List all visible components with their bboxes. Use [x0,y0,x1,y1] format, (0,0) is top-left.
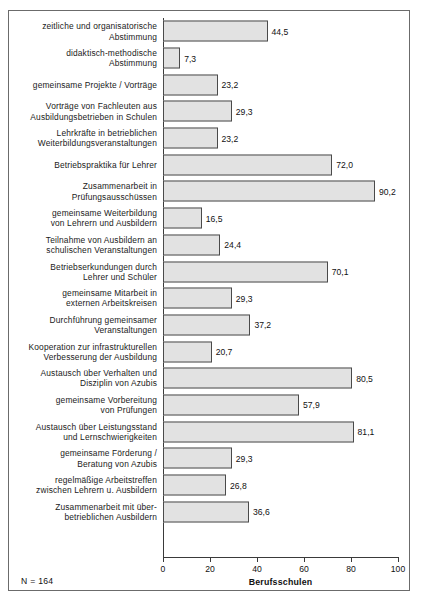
bar-container: 36,6 [163,501,270,522]
bar-row: Betriebspraktika für Lehrer72,0 [9,151,409,178]
bar-container: 29,3 [163,101,253,122]
bar-container: 57,9 [163,394,320,415]
bar [163,74,218,95]
bar-value-label: 23,2 [222,133,239,143]
bar-container: 72,0 [163,154,353,175]
bar-value-label: 81,1 [358,427,375,437]
bar-value-label: 72,0 [336,160,353,170]
bar [163,128,218,149]
bar-value-label: 44,5 [272,26,289,36]
bar-row: Kooperation zur infrastrukturellen Verbe… [9,338,409,365]
bar-row: Betriebserkundungen durch Lehrer und Sch… [9,258,409,285]
category-label: Durchführung gemeinsamer Veranstaltungen [11,315,157,335]
category-label: Austausch über Leistungsstand und Lernsc… [11,421,157,441]
bar-container: 20,7 [163,341,232,362]
x-tick-label: 100 [391,564,405,574]
x-tick-label: 20 [205,564,215,574]
x-axis-title: Berufsschulen [163,577,398,587]
bar [163,261,328,282]
category-label: Vorträge von Fachleuten aus Ausbildungsb… [11,101,157,121]
bar [163,501,249,522]
bar-row: gemeinsame Vorbereitung von Prüfungen57,… [9,392,409,419]
category-label: Teilnahme von Ausbildern an schulischen … [11,235,157,255]
x-tick-label: 60 [299,564,309,574]
bar-container: 80,5 [163,368,373,389]
bar [163,394,299,415]
bar-container: 44,5 [163,21,288,42]
x-tick-mark [163,557,164,562]
bar-container: 7,3 [163,48,196,69]
category-label: Austausch über Verhalten und Disziplin v… [11,368,157,388]
bar-row: gemeinsame Projekte / Vorträge23,2 [9,71,409,98]
category-label: Betriebspraktika für Lehrer [11,160,157,170]
x-tick-mark [210,557,211,562]
bar [163,21,268,42]
category-label: gemeinsame Vorbereitung von Prüfungen [11,395,157,415]
bar-container: 24,4 [163,234,241,255]
bar-value-label: 70,1 [332,267,349,277]
bar [163,181,375,202]
category-label: Lehrkräfte in betrieblichen Weiterbildun… [11,128,157,148]
bar-row: Zusammenarbeit mit über- betrieblichen A… [9,498,409,525]
category-label: Betriebserkundungen durch Lehrer und Sch… [11,261,157,281]
x-tick-mark [351,557,352,562]
bar-row: zeitliche und organisatorische Abstimmun… [9,18,409,45]
bar-value-label: 23,2 [222,80,239,90]
bar-row: gemeinsame Weiterbildung von Lehrern und… [9,205,409,232]
category-label: gemeinsame Weiterbildung von Lehrern und… [11,208,157,228]
category-label: gemeinsame Mitarbeit in externen Arbeits… [11,288,157,308]
category-label: didaktisch-methodische Abstimmung [11,48,157,68]
bar-value-label: 26,8 [230,480,247,490]
bar-value-label: 37,2 [254,320,271,330]
sample-size-note: N = 164 [21,576,53,586]
bar-row: Teilnahme von Ausbildern an schulischen … [9,232,409,259]
bar-container: 29,3 [163,448,253,469]
bar [163,314,250,335]
bar-row: Zusammenarbeit in Prüfungsausschüssen90,… [9,178,409,205]
chart-frame: zeitliche und organisatorische Abstimmun… [8,10,410,591]
x-tick-mark [398,557,399,562]
bar-value-label: 16,5 [206,213,223,223]
category-label: Zusammenarbeit mit über- betrieblichen A… [11,502,157,522]
bar-row: gemeinsame Förderung / Beratung von Azub… [9,445,409,472]
x-tick-label: 40 [252,564,262,574]
bar-value-label: 57,9 [303,400,320,410]
bar-row: didaktisch-methodische Abstimmung7,3 [9,45,409,72]
bar-value-label: 29,3 [236,106,253,116]
x-tick-mark [257,557,258,562]
plot-area: zeitliche und organisatorische Abstimmun… [9,11,409,590]
bar-value-label: 90,2 [379,186,396,196]
bar-container: 37,2 [163,314,271,335]
bar-value-label: 7,3 [184,53,196,63]
category-label: Kooperation zur infrastrukturellen Verbe… [11,341,157,361]
bar-container: 16,5 [163,208,223,229]
x-tick-mark [304,557,305,562]
bar [163,101,232,122]
bar-value-label: 29,3 [236,293,253,303]
bar-row: gemeinsame Mitarbeit in externen Arbeits… [9,285,409,312]
bar-row: Durchführung gemeinsamer Veranstaltungen… [9,312,409,339]
bar [163,154,332,175]
x-tick-label: 0 [161,564,166,574]
bar-value-label: 80,5 [356,373,373,383]
bar [163,341,212,362]
bar-value-label: 29,3 [236,453,253,463]
bar [163,234,220,255]
bar-container: 90,2 [163,181,396,202]
bar-container: 70,1 [163,261,348,282]
category-label: regelmäßige Arbeitstreffen zwischen Lehr… [11,475,157,495]
bar-rows: zeitliche und organisatorische Abstimmun… [9,18,409,525]
bar [163,208,202,229]
bar-row: Lehrkräfte in betrieblichen Weiterbildun… [9,125,409,152]
bar [163,421,354,442]
bar-value-label: 20,7 [216,347,233,357]
bar-row: Austausch über Leistungsstand und Lernsc… [9,418,409,445]
category-label: zeitliche und organisatorische Abstimmun… [11,21,157,41]
bar [163,48,180,69]
bar-container: 23,2 [163,74,238,95]
bar-row: regelmäßige Arbeitstreffen zwischen Lehr… [9,472,409,499]
bar [163,448,232,469]
category-label: gemeinsame Förderung / Beratung von Azub… [11,448,157,468]
bar [163,475,226,496]
bar-container: 23,2 [163,128,238,149]
